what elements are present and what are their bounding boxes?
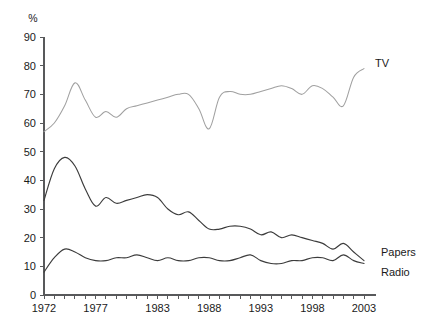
series-label-radio: Radio xyxy=(381,266,410,278)
x-tick-label: 1977 xyxy=(83,302,107,314)
y-tick-label: 90 xyxy=(24,31,36,43)
y-tick-label: 10 xyxy=(24,260,36,272)
y-tick-label: 20 xyxy=(24,232,36,244)
y-tick-label: 0 xyxy=(30,289,36,301)
line-chart: 0102030405060708090 19721977198319881993… xyxy=(0,0,421,325)
series-line-radio xyxy=(44,249,364,272)
series-label-tv: TV xyxy=(375,57,390,69)
x-tick-label: 1983 xyxy=(145,302,169,314)
y-axis: 0102030405060708090 xyxy=(24,31,44,301)
x-tick-label: 1993 xyxy=(249,302,273,314)
y-tick-label: 70 xyxy=(24,88,36,100)
x-axis: 1972197719831988199319982003 xyxy=(32,295,376,314)
series-lines xyxy=(44,69,364,273)
x-tick-label: 2003 xyxy=(352,302,376,314)
chart-container: 0102030405060708090 19721977198319881993… xyxy=(0,0,421,325)
x-tick-label: 1972 xyxy=(32,302,56,314)
x-tick-label: 1988 xyxy=(197,302,221,314)
y-tick-label: 40 xyxy=(24,174,36,186)
y-tick-label: 30 xyxy=(24,203,36,215)
series-line-papers xyxy=(44,157,364,260)
series-labels: TVPapersRadio xyxy=(375,57,416,278)
x-tick-label: 1998 xyxy=(300,302,324,314)
y-tick-label: 60 xyxy=(24,117,36,129)
y-tick-label: 50 xyxy=(24,146,36,158)
y-axis-unit-label: % xyxy=(28,12,37,24)
series-label-papers: Papers xyxy=(381,246,416,258)
series-line-tv xyxy=(44,69,364,132)
y-tick-label: 80 xyxy=(24,60,36,72)
